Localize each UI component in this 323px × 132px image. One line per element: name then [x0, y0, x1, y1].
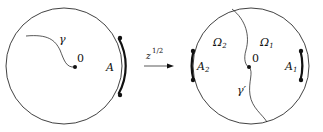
- right-disk: Ω2 Ω1 0 γ′ A1 A2: [191, 8, 309, 124]
- curve-gamma: [26, 36, 75, 67]
- gamma-prime-label: γ′: [237, 84, 247, 97]
- conformal-map-diagram: γ 0 A z 1/2 Ω2 Ω1 0 γ′ A1 A2: [0, 0, 323, 132]
- arc-A2-label: A2: [196, 60, 210, 74]
- origin-label-left: 0: [77, 52, 84, 65]
- left-disk: γ 0 A: [6, 8, 126, 124]
- arrowhead-icon: [167, 64, 174, 69]
- origin-label-right: 0: [252, 52, 259, 65]
- omega2-label: Ω2: [212, 36, 227, 50]
- arc-A1-label: A1: [284, 60, 297, 74]
- omega1-label: Ω1: [259, 36, 274, 50]
- arc-A1: [301, 51, 303, 80]
- origin-point-left: [73, 65, 77, 69]
- map-arrow: z 1/2: [144, 47, 174, 69]
- arc-A-endpoint-bottom: [118, 93, 122, 97]
- arc-A2-endpoint-top: [191, 49, 195, 53]
- arc-A1-endpoint-top: [299, 49, 303, 53]
- unit-circle-left: [6, 8, 122, 124]
- map-label-base: z: [145, 51, 151, 61]
- origin-point-right: [247, 65, 251, 69]
- arc-A-endpoint-top: [118, 36, 122, 40]
- gamma-label: γ: [59, 33, 66, 46]
- arc-A-label: A: [105, 61, 114, 74]
- map-label-exponent: 1/2: [152, 47, 163, 55]
- arc-A1-endpoint-bottom: [299, 78, 303, 82]
- arc-A2-endpoint-bottom: [191, 78, 195, 82]
